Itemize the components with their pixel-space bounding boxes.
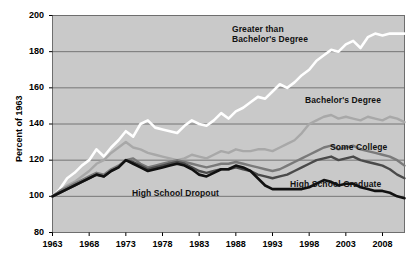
x-tick-label: 2008 (363, 240, 403, 249)
plot-area (52, 15, 405, 233)
x-tick-label: 1963 (33, 240, 73, 249)
series-label-line2: Bachelor's Degree (232, 34, 308, 44)
y-tick-label: 180 (0, 47, 44, 56)
y-axis-title: Percent of 1963 (14, 95, 24, 162)
x-tick-label: 1983 (179, 240, 219, 249)
x-tick-label: 1993 (253, 240, 293, 249)
x-tick-label: 1978 (143, 240, 183, 249)
series-label-bachelor-s-degree: Bachelor's Degree (305, 95, 381, 105)
y-tick-label: 200 (0, 11, 44, 20)
y-tick-label: 160 (0, 83, 44, 92)
y-tick-label: 100 (0, 191, 44, 200)
x-tick-label: 1988 (216, 240, 256, 249)
x-tick-label: 1973 (106, 240, 146, 249)
x-tick-label: 1998 (289, 240, 329, 249)
x-tick-label: 1968 (69, 240, 109, 249)
series-label-greater-than-bachelor-s-degree: Greater thanBachelor's Degree (232, 24, 308, 44)
series-label-high-school-graduate: High School Graduate (290, 179, 381, 189)
chart-container: Percent of 1963 80100120140160180200 196… (0, 0, 418, 263)
y-tick-label: 120 (0, 155, 44, 164)
series-label-some-college: Some College (330, 142, 387, 152)
x-tick-label: 2003 (326, 240, 366, 249)
y-tick-label: 140 (0, 119, 44, 128)
series-label-high-school-dropout: High School Dropout (132, 188, 219, 198)
y-tick-label: 80 (0, 228, 44, 237)
